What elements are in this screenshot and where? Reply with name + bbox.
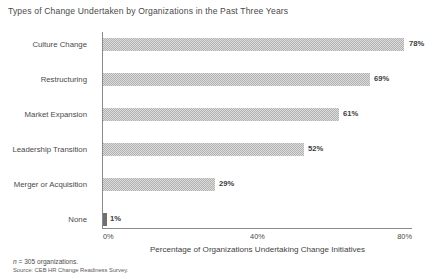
category-label: None [68, 215, 87, 224]
bar-value-label: 69% [374, 74, 389, 83]
x-tick-label-40: 40% [250, 232, 265, 241]
plot-area: Culture Change 78% Restructuring 69% Mar… [103, 32, 412, 228]
source-note: Source: CEB HR Change Readiness Survey. [13, 266, 128, 275]
chart-title: Types of Change Undertaken by Organizati… [8, 6, 288, 16]
bar-value-label: 29% [219, 179, 234, 188]
y-axis-line [102, 32, 103, 228]
category-label: Culture Change [32, 40, 87, 49]
category-label-wrap: Leadership Transition [0, 143, 95, 156]
x-axis-title: Percentage of Organizations Undertaking … [103, 245, 412, 254]
category-label: Merger or Acquisition [14, 180, 87, 189]
bar-value-label: 52% [308, 144, 323, 153]
bar-value-label: 61% [343, 109, 358, 118]
sample-size-note: n = 305 organizations. [13, 257, 128, 266]
bar-value-label: 1% [110, 214, 121, 223]
bar-leadership-transition[interactable] [103, 143, 304, 156]
bar-merger-or-acquisition[interactable] [103, 178, 215, 191]
bar-value-label: 78% [409, 39, 424, 48]
category-label: Leadership Transition [12, 145, 87, 154]
bar-restructuring[interactable] [103, 73, 370, 86]
x-tick-label-0: 0% [103, 232, 114, 241]
x-axis-line [102, 228, 412, 229]
category-label-wrap: Restructuring [0, 73, 95, 86]
category-label: Restructuring [41, 75, 87, 84]
category-label-wrap: Market Expansion [0, 108, 95, 121]
sample-size-text: = 305 organizations. [17, 258, 78, 265]
category-label-wrap: Merger or Acquisition [0, 178, 95, 191]
footnotes: n = 305 organizations. Source: CEB HR Ch… [13, 257, 128, 275]
category-label-wrap: None [0, 213, 95, 226]
bar-none[interactable] [103, 213, 107, 226]
category-label-wrap: Culture Change [0, 38, 95, 51]
bar-market-expansion[interactable] [103, 108, 339, 121]
category-label: Market Expansion [25, 110, 87, 119]
x-tick-label-80: 80% [397, 232, 412, 241]
bar-chart-figure: Types of Change Undertaken by Organizati… [0, 0, 444, 279]
bar-culture-change[interactable] [103, 38, 404, 51]
